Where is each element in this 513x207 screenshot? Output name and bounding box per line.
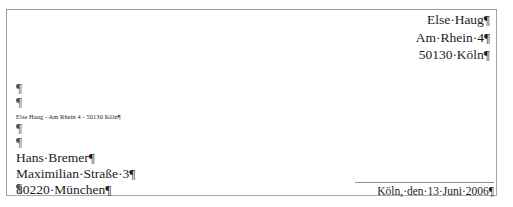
empty-paragraphs-top[interactable]: ¶ ¶: [16, 81, 22, 109]
document-body[interactable]: Else·Haug¶ Am·Rhein·4¶ 50130·Köln¶ ¶ ¶ E…: [7, 10, 496, 195]
recipient-address-block[interactable]: ¶ Hans·Bremer¶ Maximilian·Straße·3¶ 8022…: [16, 134, 135, 198]
recipient-city-line: 80220·München¶: [16, 182, 135, 198]
empty-paragraph-mid[interactable]: ¶: [16, 121, 22, 135]
empty-paragraph-bottom[interactable]: ¶: [16, 181, 22, 195]
return-address-line[interactable]: Else Haug - Am Rhein 4 - 50130 Köln¶: [16, 112, 121, 121]
recipient-street-line: Maximilian·Straße·3¶: [16, 166, 135, 182]
recipient-name-line: Hans·Bremer¶: [16, 150, 135, 166]
paragraph-mark-icon: ¶: [16, 120, 22, 135]
sender-address-line-1: Else·Haug¶: [416, 11, 490, 29]
paragraph-mark-icon: ¶: [16, 95, 22, 109]
paragraph-mark-icon: ¶: [16, 180, 22, 195]
date-line[interactable]: Köln,·den·13·Juni·2006¶: [355, 182, 494, 198]
sender-address-line-3: 50130·Köln¶: [416, 46, 490, 64]
document-page-frame: Else·Haug¶ Am·Rhein·4¶ 50130·Köln¶ ¶ ¶ E…: [6, 9, 497, 196]
sender-address-line-2: Am·Rhein·4¶: [416, 29, 490, 47]
sender-address-block[interactable]: Else·Haug¶ Am·Rhein·4¶ 50130·Köln¶: [416, 11, 490, 64]
paragraph-mark-icon: ¶: [16, 134, 135, 150]
paragraph-mark-icon: ¶: [16, 81, 22, 95]
